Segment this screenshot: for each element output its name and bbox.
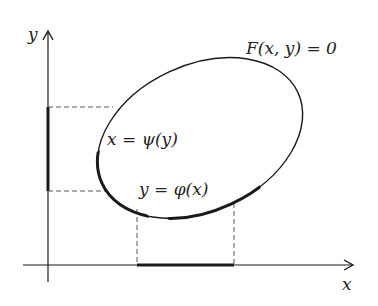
y-axis-label: y: [28, 26, 38, 43]
curve-equation-label: F(x, y) = 0: [246, 40, 337, 57]
psi-label: x = ψ(y): [107, 131, 178, 148]
x-axis-label: x: [342, 276, 352, 293]
phi-label: y = φ(x): [139, 181, 208, 198]
